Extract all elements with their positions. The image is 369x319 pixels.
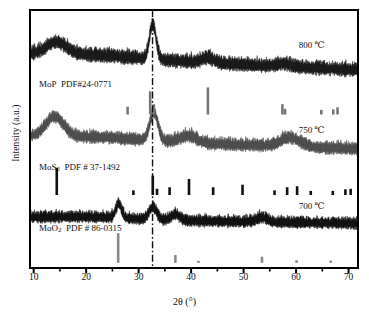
- x-axis-label: 2θ (°): [0, 296, 369, 307]
- stick-marker: [332, 191, 335, 195]
- pdf-formula-MoO2: MoO: [39, 223, 58, 233]
- series-label-750: 750 ℃: [299, 125, 325, 135]
- pdf-code-MoP: PDF#24-0771: [56, 79, 112, 89]
- stick-marker: [295, 260, 298, 263]
- x-tick-label-30: 30: [126, 272, 152, 282]
- stick-marker: [126, 107, 129, 115]
- stick-marker: [296, 186, 299, 195]
- x-tick-label-40: 40: [178, 272, 204, 282]
- stick-marker: [261, 257, 264, 263]
- stick-marker: [241, 185, 244, 195]
- stick-marker: [329, 261, 332, 263]
- x-tick-label-60: 60: [283, 272, 309, 282]
- stick-marker: [197, 261, 200, 263]
- stick-marker: [212, 187, 215, 195]
- stick-marker: [286, 187, 289, 195]
- series-label-800: 800 ℃: [299, 40, 325, 50]
- stick-marker: [273, 190, 276, 195]
- x-tick-label-50: 50: [231, 272, 257, 282]
- stick-marker: [284, 109, 287, 115]
- stick-marker: [336, 107, 339, 114]
- pdf-label-MoP: MoP PDF#24-0771: [39, 79, 112, 89]
- stick-marker: [188, 179, 191, 195]
- stick-marker: [349, 189, 352, 195]
- stick-marker: [149, 91, 152, 114]
- stick-marker: [174, 255, 177, 263]
- pdf-code-MoS2: PDF # 37-1492: [60, 162, 120, 172]
- x-tick-label-20: 20: [73, 272, 99, 282]
- x-tick-label-70: 70: [336, 272, 362, 282]
- stick-marker: [332, 109, 335, 114]
- stick-marker: [132, 190, 135, 195]
- pdf-label-MoS2: MoS2 PDF # 37-1492: [39, 162, 120, 173]
- stick-marker: [344, 189, 347, 195]
- reference-sticks-MoP: [126, 87, 339, 114]
- stick-marker: [117, 233, 120, 263]
- reference-sticks-MoO2: [117, 233, 332, 263]
- stick-marker: [309, 191, 312, 195]
- pdf-formula-MoS2: MoS: [39, 162, 57, 172]
- xrd-figure: Intensity (a.u.) 2θ (°) 10203040506070 8…: [0, 0, 369, 319]
- pdf-formula-MoP: MoP: [39, 79, 57, 89]
- pdf-label-MoO2: MoO2 PDF # 86-0315: [39, 223, 122, 234]
- y-axis-label: Intensity (a.u.): [11, 73, 21, 193]
- stick-marker: [281, 104, 284, 114]
- series-label-700: 700 ℃: [299, 201, 325, 211]
- stick-marker: [156, 189, 159, 195]
- stick-marker: [207, 87, 210, 114]
- pdf-code-MoO2: PDF # 86-0315: [61, 223, 121, 233]
- stick-marker: [320, 110, 323, 115]
- stick-marker: [168, 187, 171, 195]
- x-axis-label-text: 2θ (°): [173, 296, 196, 307]
- x-tick-label-10: 10: [21, 272, 47, 282]
